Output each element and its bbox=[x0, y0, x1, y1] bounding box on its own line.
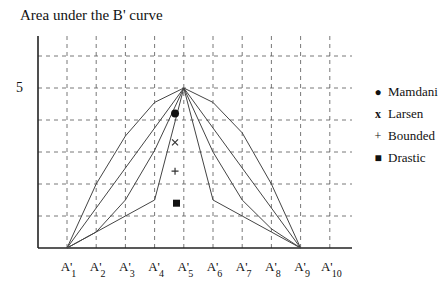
square-marker-icon: ■ bbox=[370, 151, 386, 166]
x-tick-label: A'1 bbox=[54, 259, 84, 275]
x-tick-label: A'3 bbox=[112, 259, 142, 275]
gridlines bbox=[38, 36, 352, 248]
x-tick-label: A'8 bbox=[258, 259, 288, 275]
plus-marker-icon: + bbox=[370, 129, 386, 144]
plus-marker-icon bbox=[172, 168, 179, 175]
x-tick-label: A'5 bbox=[171, 259, 201, 275]
x-tick-label: A'6 bbox=[200, 259, 230, 275]
x-tick-label: A'10 bbox=[317, 259, 347, 275]
circle-marker-icon: ● bbox=[370, 85, 386, 100]
series-markers bbox=[171, 110, 180, 207]
x-tick-label: A'4 bbox=[142, 259, 172, 275]
legend-item-drastic: ■ Drastic bbox=[370, 144, 438, 172]
circle-marker-icon bbox=[171, 110, 179, 118]
x-tick-label: A'2 bbox=[83, 259, 113, 275]
x-tick-label: A'7 bbox=[229, 259, 259, 275]
x-tick-label: A'9 bbox=[288, 259, 318, 275]
legend: ● Mamdani x Larsen + Bounded ■ Drastic bbox=[370, 78, 438, 166]
x-marker-icon: x bbox=[370, 107, 386, 122]
x-marker-icon bbox=[172, 139, 178, 145]
square-marker-icon bbox=[173, 200, 180, 207]
